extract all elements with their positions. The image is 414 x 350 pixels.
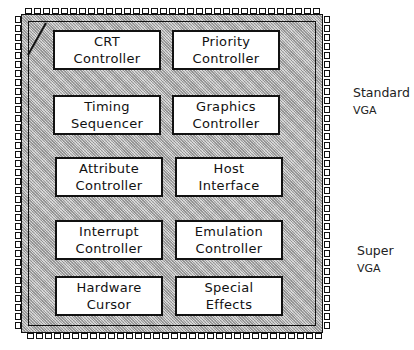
- ic-pin: [324, 43, 330, 50]
- block-priority-controller: Priority Controller: [172, 30, 280, 70]
- ic-pin: [324, 25, 330, 32]
- ic-pin: [324, 214, 330, 221]
- ic-pin: [324, 313, 330, 320]
- block-label-line1: Interrupt: [79, 223, 139, 240]
- ic-pin: [198, 333, 205, 339]
- label-line2: VGA: [353, 102, 410, 120]
- ic-pin: [288, 333, 295, 339]
- block-label-line2: Controller: [74, 50, 141, 67]
- ic-pin: [324, 106, 330, 113]
- label-super-vga: Super VGA: [357, 242, 394, 278]
- ic-pin: [108, 333, 115, 339]
- ic-pin: [324, 34, 330, 41]
- block-label-line2: Controller: [193, 50, 260, 67]
- ic-pin: [324, 133, 330, 140]
- label-standard-vga: Standard VGA: [353, 84, 410, 120]
- block-label-line1: Graphics: [196, 98, 256, 115]
- ic-pin: [153, 333, 160, 339]
- ic-pin: [324, 16, 330, 23]
- ic-pin: [324, 205, 330, 212]
- block-label-line1: Emulation: [195, 223, 263, 240]
- ic-pin: [324, 187, 330, 194]
- block-special-effects: Special Effects: [175, 276, 283, 316]
- ic-pin: [324, 169, 330, 176]
- ic-pin: [252, 333, 259, 339]
- ic-pin: [27, 333, 34, 339]
- ic-pin: [270, 333, 277, 339]
- ic-pin: [144, 333, 151, 339]
- label-line1: Super: [357, 242, 394, 260]
- ic-pin: [135, 333, 142, 339]
- ic-pin: [297, 333, 304, 339]
- ic-pin: [306, 333, 313, 339]
- ic-pin: [243, 333, 250, 339]
- ic-pin: [315, 333, 322, 339]
- block-attribute-controller: Attribute Controller: [55, 157, 163, 197]
- block-label-line2: Controller: [193, 115, 260, 132]
- ic-pin: [324, 97, 330, 104]
- ic-pin: [324, 151, 330, 158]
- ic-pin: [324, 178, 330, 185]
- block-emulation-controller: Emulation Controller: [175, 220, 283, 260]
- label-line2: VGA: [357, 260, 394, 278]
- ic-pin: [324, 322, 330, 329]
- block-label-line2: Cursor: [87, 296, 132, 313]
- block-timing-sequencer: Timing Sequencer: [53, 95, 161, 135]
- label-line1: Standard: [353, 84, 410, 102]
- ic-pin: [261, 333, 268, 339]
- block-label-line1: Priority: [202, 33, 251, 50]
- block-graphics-controller: Graphics Controller: [172, 95, 280, 135]
- ic-pin: [324, 232, 330, 239]
- ic-pin: [81, 333, 88, 339]
- block-label-line2: Effects: [206, 296, 252, 313]
- ic-pin: [99, 333, 106, 339]
- ic-pin: [324, 250, 330, 257]
- pin1-bevel-mark: [26, 19, 48, 59]
- ic-pin: [180, 333, 187, 339]
- ic-pin: [234, 333, 241, 339]
- block-label-line1: CRT: [94, 33, 120, 50]
- pins-bottom: [27, 333, 324, 339]
- ic-pin: [36, 333, 43, 339]
- ic-pin: [324, 115, 330, 122]
- ic-pin: [117, 333, 124, 339]
- ic-pin: [171, 333, 178, 339]
- ic-pin: [324, 160, 330, 167]
- ic-pin: [324, 124, 330, 131]
- ic-pin: [324, 295, 330, 302]
- ic-pin: [324, 259, 330, 266]
- ic-pin: [324, 268, 330, 275]
- ic-pin: [63, 333, 70, 339]
- ic-pin: [324, 241, 330, 248]
- block-label-line1: Special: [205, 279, 254, 296]
- block-crt-controller: CRT Controller: [53, 30, 161, 70]
- ic-pin: [324, 196, 330, 203]
- ic-pin: [324, 52, 330, 59]
- block-hardware-cursor: Hardware Cursor: [55, 276, 163, 316]
- ic-pin: [324, 304, 330, 311]
- block-label-line2: Controller: [196, 240, 263, 257]
- ic-pin: [45, 333, 52, 339]
- block-label-line2: Controller: [76, 177, 143, 194]
- ic-pin: [216, 333, 223, 339]
- block-label-line1: Hardware: [76, 279, 141, 296]
- ic-pin: [324, 88, 330, 95]
- ic-pin: [72, 333, 79, 339]
- block-interrupt-controller: Interrupt Controller: [55, 220, 163, 260]
- ic-pin: [279, 333, 286, 339]
- ic-pin: [324, 223, 330, 230]
- ic-pin: [162, 333, 169, 339]
- ic-pin: [324, 61, 330, 68]
- block-label-line2: Controller: [76, 240, 143, 257]
- ic-pin: [324, 70, 330, 77]
- ic-pin: [324, 142, 330, 149]
- block-label-line1: Host: [214, 160, 245, 177]
- ic-pin: [324, 79, 330, 86]
- ic-pin: [126, 333, 133, 339]
- block-label-line2: Interface: [199, 177, 260, 194]
- ic-pin: [189, 333, 196, 339]
- ic-pin: [225, 333, 232, 339]
- block-label-line1: Timing: [84, 98, 130, 115]
- block-label-line1: Attribute: [79, 160, 139, 177]
- ic-pin: [90, 333, 97, 339]
